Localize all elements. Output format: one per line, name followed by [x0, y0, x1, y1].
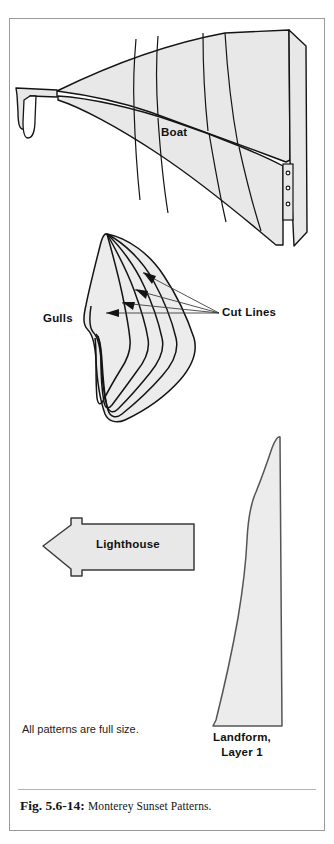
boat-mast-circle — [286, 202, 290, 206]
figure-page: Boat Gulls Cut Lines Lighthouse Landform… — [0, 0, 334, 844]
caption-divider — [18, 789, 316, 790]
label-boat: Boat — [161, 126, 187, 138]
boat-keel-prong — [23, 96, 36, 138]
figure-caption-text: Monterey Sunset Patterns. — [88, 800, 212, 812]
label-landform-line2: Layer 1 — [213, 745, 271, 760]
pattern-gulls — [84, 234, 219, 422]
boat-bowsprit — [16, 88, 57, 129]
gulls-outer-shape — [84, 234, 195, 422]
pattern-boat — [16, 30, 307, 246]
boat-mast-circle — [286, 171, 290, 175]
label-gulls: Gulls — [43, 312, 73, 324]
label-cut-lines: Cut Lines — [222, 306, 276, 318]
label-landform-line1: Landform, — [213, 730, 271, 745]
pattern-landform — [213, 437, 282, 726]
label-lighthouse: Lighthouse — [96, 538, 160, 550]
label-landform: Landform, Layer 1 — [213, 730, 271, 760]
landform-shape — [213, 437, 282, 726]
note-all-patterns-full-size: All patterns are full size. — [22, 723, 139, 735]
figure-caption-number: Fig. 5.6-14: — [20, 798, 85, 813]
figure-caption: Fig. 5.6-14: Monterey Sunset Patterns. — [20, 798, 316, 814]
boat-mast-circle — [286, 186, 290, 190]
